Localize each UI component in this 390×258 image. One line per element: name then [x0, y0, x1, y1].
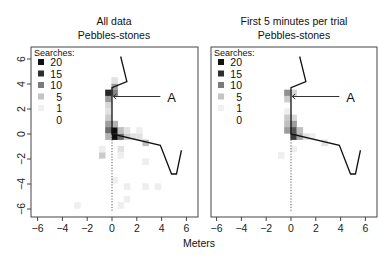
x-tick-label: 2 [313, 222, 319, 234]
heat-cell [124, 127, 131, 134]
heat-cell [278, 152, 285, 159]
heat-cell [118, 146, 125, 153]
legend-swatch [218, 105, 224, 111]
heat-cell [74, 202, 81, 209]
heat-cell [284, 90, 291, 97]
legend-swatch [38, 105, 44, 111]
heat-cell [155, 183, 162, 190]
heat-cell [99, 152, 106, 159]
x-tick-label: −6 [211, 222, 223, 234]
chart-canvas: ASearches:201510510−6−4−20246−6−4−20246A… [0, 0, 390, 258]
y-tick-label: 4 [15, 81, 27, 87]
heat-cell [99, 146, 106, 153]
heat-cell [105, 133, 112, 140]
x-tick-label: 6 [362, 222, 368, 234]
heat-cell [105, 96, 112, 103]
y-tick-label: −4 [15, 178, 27, 190]
legend-swatch [38, 82, 44, 88]
heat-cell [105, 121, 112, 128]
legend-label: 15 [230, 68, 242, 80]
y-tick-label: 2 [15, 106, 27, 112]
heat-cell [284, 121, 291, 128]
heat-cell [124, 183, 131, 190]
legend-swatch [38, 94, 44, 100]
y-tick-label: −6 [15, 203, 27, 215]
legend-swatch [218, 82, 224, 88]
heat-cell [297, 127, 304, 134]
heat-cell [111, 77, 118, 84]
heat-cell [105, 102, 112, 109]
x-tick-label: −4 [235, 222, 247, 234]
x-tick-label: 4 [338, 222, 344, 234]
x-tick-label: −2 [81, 222, 93, 234]
heat-cell [118, 152, 125, 159]
legend-label: 15 [50, 68, 62, 80]
heat-cell [142, 183, 149, 190]
heat-cell [105, 108, 112, 115]
legend-swatch [218, 71, 224, 77]
legend-label: 1 [56, 102, 62, 114]
legend-swatch [218, 59, 224, 65]
x-tick-label: 4 [159, 222, 165, 234]
heat-cell [142, 158, 149, 165]
heat-cell [124, 196, 131, 203]
legend-swatch [218, 94, 224, 100]
legend-label: 10 [230, 79, 242, 91]
heat-cell [284, 108, 291, 115]
y-tick-label: −2 [15, 153, 27, 165]
heat-cell [136, 133, 143, 140]
legend-label: 1 [236, 102, 242, 114]
legend-label: 20 [230, 56, 242, 68]
legend-swatch [38, 71, 44, 77]
legend-swatch [38, 59, 44, 65]
heat-cell [105, 115, 112, 122]
legend-label: 20 [50, 56, 62, 68]
panel-first-5-minutes: ASearches:201510510−6−4−20246 [211, 47, 377, 234]
x-tick-label: 2 [134, 222, 140, 234]
legend-label: 0 [56, 114, 62, 126]
heat-cell [118, 202, 125, 209]
legend-label: 5 [236, 91, 242, 103]
heat-cell [118, 127, 125, 134]
x-tick-label: 0 [288, 222, 294, 234]
heat-cell [284, 96, 291, 103]
heat-cell [284, 115, 291, 122]
heat-cell [105, 127, 112, 134]
x-tick-label: 6 [183, 222, 189, 234]
heat-cell [105, 90, 112, 97]
panel-all-data: ASearches:201510510−6−4−20246−6−4−20246 [15, 47, 198, 234]
legend-label: 0 [236, 114, 242, 126]
heat-cell [136, 127, 143, 134]
legend-label: 5 [56, 91, 62, 103]
x-tick-label: 0 [109, 222, 115, 234]
heat-cell [284, 127, 291, 134]
y-tick-label: 6 [15, 56, 27, 62]
x-tick-label: −4 [56, 222, 68, 234]
annotation-label: A [346, 90, 355, 105]
legend-label: 10 [50, 79, 62, 91]
trajectory-path [291, 57, 360, 175]
annotation-label: A [167, 90, 176, 105]
y-tick-label: 0 [15, 131, 27, 137]
x-tick-label: −6 [32, 222, 44, 234]
x-tick-label: −2 [260, 222, 272, 234]
